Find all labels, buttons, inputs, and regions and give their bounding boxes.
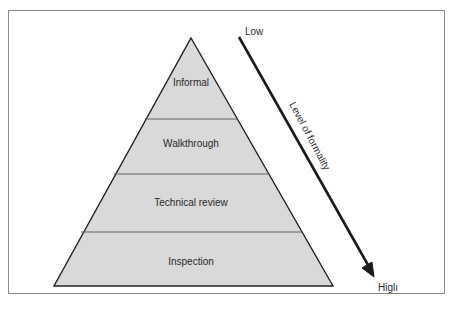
pyramid-shape xyxy=(54,38,333,286)
formality-arrow-head-icon xyxy=(362,262,374,277)
axis-low-label: Low xyxy=(245,26,263,37)
level-inspection: Inspection xyxy=(168,256,214,267)
level-informal: Informal xyxy=(173,77,209,88)
axis-high-label: Higlı xyxy=(378,282,398,293)
level-technical-review: Technical review xyxy=(154,197,227,208)
pyramid-diagram xyxy=(0,0,456,317)
level-walkthrough: Walkthrough xyxy=(163,138,219,149)
